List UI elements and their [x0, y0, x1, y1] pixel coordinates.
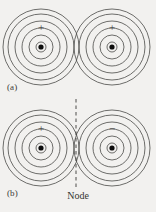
phase-sign-right: −: [109, 122, 115, 134]
panel-a: + +: [3, 9, 150, 85]
phase-sign-left: +: [38, 122, 44, 134]
nucleus-dot: [109, 44, 114, 49]
phase-sign-left: +: [38, 21, 44, 33]
node-label: Node: [0, 190, 156, 201]
phase-sign-right: +: [109, 21, 115, 33]
nucleus-dot: [109, 145, 114, 150]
nucleus-dot: [38, 44, 43, 49]
nucleus-dot: [38, 145, 43, 150]
panel-a-label: (a): [7, 82, 17, 92]
orbital-overlap-figure: + + + −: [0, 0, 156, 212]
panel-b: + −: [3, 99, 150, 190]
